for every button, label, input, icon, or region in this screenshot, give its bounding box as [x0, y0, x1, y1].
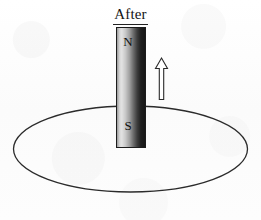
arrow-up-path — [156, 58, 168, 100]
physics-figure: After N S — [0, 0, 261, 220]
bar-magnet: N S — [116, 27, 146, 148]
motion-arrow-up-icon — [150, 56, 174, 102]
magnet-north-pole-label: N — [120, 35, 136, 49]
magnet-south-pole-label: S — [120, 119, 136, 133]
